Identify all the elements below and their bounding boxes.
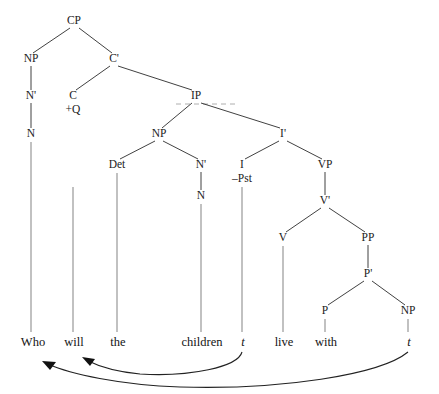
node-c: C bbox=[69, 89, 77, 101]
branch-cp-to-cbar bbox=[79, 28, 112, 53]
node-cp: CP bbox=[67, 14, 81, 26]
node-vbar: V' bbox=[320, 194, 330, 206]
branch-cbar-to-ip bbox=[118, 66, 192, 90]
branch-vbar-to-v bbox=[286, 208, 321, 232]
node-pp: PP bbox=[362, 231, 375, 243]
move-wh-arc bbox=[48, 352, 408, 387]
feature-cfeat: +Q bbox=[66, 103, 81, 115]
feature-ifeat: –Pst bbox=[231, 172, 253, 184]
move-i-to-c-arrowhead bbox=[82, 357, 95, 366]
branch-cp-to-np1 bbox=[33, 28, 70, 53]
branch-np2-to-n2bar bbox=[163, 141, 198, 159]
node-np2: NP bbox=[152, 127, 167, 139]
move-wh-arrowhead bbox=[42, 361, 56, 370]
node-np1: NP bbox=[24, 52, 39, 64]
branch-pbar-to-p bbox=[328, 281, 364, 305]
terminal-stem-layer bbox=[31, 142, 408, 332]
node-p: P bbox=[322, 304, 328, 316]
node-ibar: I' bbox=[280, 127, 286, 139]
branch-ip-to-ibar bbox=[201, 103, 280, 128]
node-cbar: C' bbox=[109, 52, 119, 64]
node-label-layer: CPNPC'N'CIPNNPI'DetN'IVPNV'VPPP'PNP bbox=[24, 14, 416, 316]
node-det: Det bbox=[109, 158, 126, 170]
word-children: children bbox=[182, 335, 224, 349]
branch-vbar-to-pp bbox=[329, 208, 365, 232]
word-live: live bbox=[275, 335, 294, 349]
branch-ip-to-np2 bbox=[162, 103, 192, 128]
word-trace-1: t bbox=[241, 335, 245, 349]
branch-ibar-to-i bbox=[245, 141, 279, 159]
word-who: Who bbox=[21, 335, 45, 349]
movement-arrow-layer bbox=[42, 352, 408, 387]
node-n1bar: N' bbox=[26, 89, 36, 101]
branch-layer bbox=[31, 28, 405, 305]
word-the: the bbox=[110, 335, 126, 349]
branch-ibar-to-vp bbox=[287, 141, 322, 159]
move-i-to-c-arc bbox=[86, 352, 242, 375]
word-with: with bbox=[315, 335, 338, 349]
branch-pbar-to-np3 bbox=[372, 281, 405, 305]
feature-label-layer: +Q–Pst bbox=[66, 103, 253, 184]
node-n1: N bbox=[27, 127, 36, 139]
branch-np2-to-det bbox=[120, 141, 155, 159]
node-v: V bbox=[279, 231, 288, 243]
word-will: will bbox=[64, 335, 84, 349]
node-pbar: P' bbox=[364, 267, 372, 279]
node-n2: N bbox=[197, 189, 206, 201]
node-i: I bbox=[240, 158, 244, 170]
word-trace-2: t bbox=[407, 335, 411, 349]
node-np3: NP bbox=[401, 304, 416, 316]
tree-canvas: CPNPC'N'CIPNNPI'DetN'IVPNV'VPPP'PNP +Q–P… bbox=[0, 0, 439, 394]
node-n2bar: N' bbox=[196, 158, 206, 170]
branch-cbar-to-c bbox=[76, 66, 110, 90]
node-ip: IP bbox=[191, 89, 201, 101]
syntax-tree-figure: CPNPC'N'CIPNNPI'DetN'IVPNV'VPPP'PNP +Q–P… bbox=[0, 0, 439, 394]
terminal-word-layer: Whowillthechildrentlivewitht bbox=[21, 335, 411, 349]
node-vp: VP bbox=[318, 158, 333, 170]
